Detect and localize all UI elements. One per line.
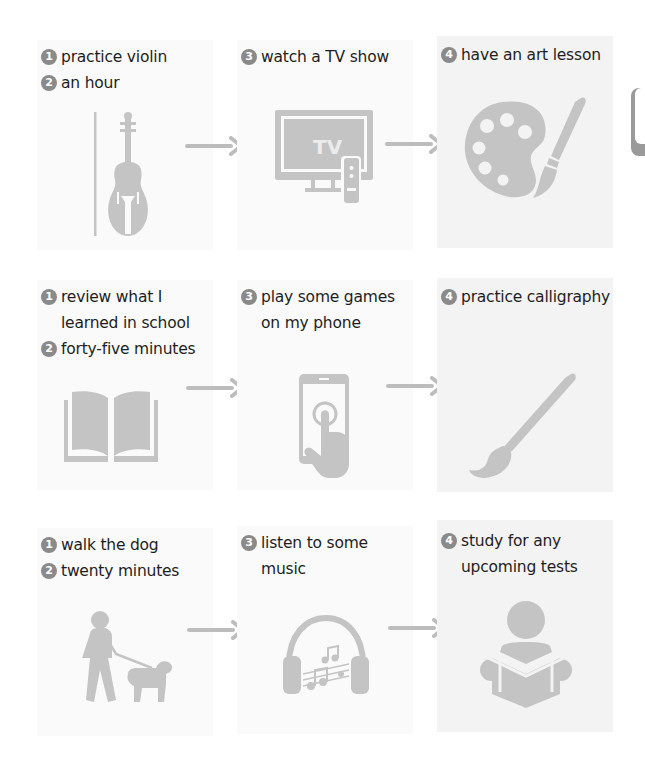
label-text: watch a TV show	[261, 48, 389, 66]
palette-brush-icon	[463, 94, 593, 204]
label-text: practice calligraphy	[461, 288, 610, 306]
activity-label: 4have an art lesson	[441, 42, 601, 68]
label-text: twenty minutes	[61, 562, 179, 580]
activity-label: 3play some games on my phone	[241, 284, 395, 336]
page-tab-edge	[631, 88, 645, 156]
label-text: music	[261, 560, 306, 578]
label-text: listen to some	[261, 534, 368, 552]
tv-icon-text: TV	[313, 135, 343, 159]
headphones-music-icon	[281, 612, 371, 698]
reading-person-icon	[480, 600, 572, 708]
number-badge: 4	[441, 533, 457, 549]
number-badge: 2	[41, 75, 57, 91]
activity-label: 1practice violin 2an hour	[41, 44, 167, 96]
panel-study-tests: 4study for any upcoming tests	[437, 520, 613, 732]
activity-label: 4practice calligraphy	[441, 284, 610, 310]
number-badge: 1	[41, 49, 57, 65]
number-badge: 3	[241, 49, 257, 65]
activity-label: 1walk the dog 2twenty minutes	[41, 532, 179, 584]
activity-label: 3listen to some music	[241, 530, 368, 582]
number-badge: 3	[241, 535, 257, 551]
label-text: learned in school	[61, 314, 190, 332]
number-badge: 1	[41, 289, 57, 305]
tv-icon: TV	[275, 110, 380, 210]
number-badge: 2	[41, 563, 57, 579]
phone-tap-icon	[299, 374, 359, 480]
arrow-right-icon	[185, 136, 245, 156]
number-badge: 1	[41, 537, 57, 553]
activity-label: 4study for any upcoming tests	[441, 528, 578, 580]
label-text: play some games	[261, 288, 395, 306]
activity-label: 3watch a TV show	[241, 44, 389, 70]
number-badge: 3	[241, 289, 257, 305]
number-badge: 2	[41, 341, 57, 357]
label-text: an hour	[61, 74, 119, 92]
label-text: on my phone	[261, 314, 361, 332]
number-badge: 4	[441, 289, 457, 305]
arrow-right-icon	[385, 134, 445, 154]
violin-icon	[93, 110, 153, 240]
panel-art-lesson: 4have an art lesson	[437, 36, 613, 248]
label-text: practice violin	[61, 48, 167, 66]
open-book-icon	[64, 390, 158, 466]
brush-icon	[469, 372, 579, 482]
label-text: study for any	[461, 532, 561, 550]
dog-walker-icon	[80, 610, 180, 706]
number-badge: 4	[441, 47, 457, 63]
activity-label: 1review what I learned in school 2forty-…	[41, 284, 195, 362]
label-text: walk the dog	[61, 536, 159, 554]
panel-listen-music: 3listen to some music	[237, 526, 413, 734]
label-text: forty-five minutes	[61, 340, 195, 358]
panel-calligraphy: 4practice calligraphy	[437, 278, 613, 492]
label-text: review what I	[61, 288, 162, 306]
label-text: have an art lesson	[461, 46, 601, 64]
label-text: upcoming tests	[461, 558, 578, 576]
